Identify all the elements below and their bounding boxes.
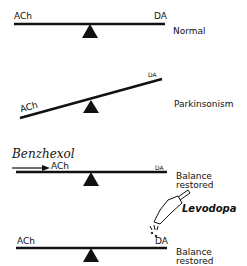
- state-balance-restored: Balancerestored: [176, 172, 214, 191]
- seesaw-diagram: [0, 0, 247, 266]
- da-label: DA: [155, 237, 168, 246]
- drug-benzhexol: Benzhexol: [12, 147, 75, 161]
- state-normal: Normal: [173, 27, 206, 36]
- ach-label: ACh: [14, 12, 32, 21]
- fulcrum-icon: [82, 24, 98, 38]
- da-label: DA: [148, 72, 157, 78]
- fulcrum-icon: [83, 172, 99, 186]
- drug-levodopa: Levodopa: [182, 203, 236, 214]
- da-label: DA: [154, 12, 167, 21]
- ach-label: ACh: [51, 162, 69, 171]
- fulcrum-icon: [83, 100, 99, 113]
- da-label: DA: [155, 165, 164, 171]
- state-balance-restored: Balancerestored: [176, 248, 214, 266]
- ach-label: ACh: [17, 237, 35, 246]
- fulcrum-icon: [83, 248, 99, 262]
- state-parkinsonism: Parkinsonism: [174, 100, 234, 109]
